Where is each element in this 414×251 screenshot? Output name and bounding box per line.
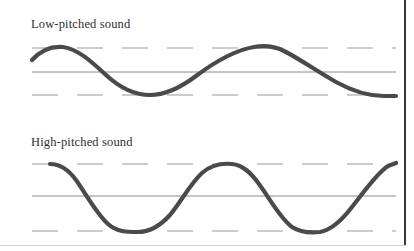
figure-right-border xyxy=(404,0,406,246)
low-pitched-wave-path xyxy=(32,46,396,96)
low-pitched-waveform-chart xyxy=(0,0,414,125)
panel-low-pitched-sound: Low-pitched sound xyxy=(0,0,414,125)
figure-bottom-border xyxy=(0,245,406,246)
sound-wave-figure: Low-pitched sound High-pitched sound xyxy=(0,0,414,251)
high-pitched-wave-path xyxy=(50,163,396,232)
high-pitched-waveform-chart xyxy=(0,125,414,251)
panel-high-pitched-sound: High-pitched sound xyxy=(0,125,414,251)
